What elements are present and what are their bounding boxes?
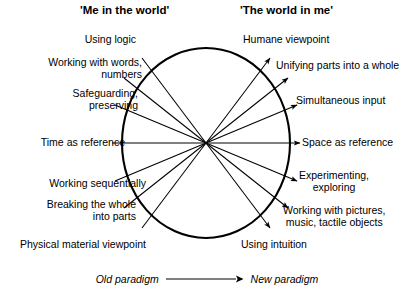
label-line: numbers bbox=[48, 69, 142, 81]
label-line: Working with pictures, bbox=[283, 205, 386, 217]
label-new-space-as-reference: Space as reference bbox=[302, 137, 393, 149]
label-old-time-as-reference: Time as reference bbox=[41, 137, 125, 149]
label-new-working-with-pictures-music-tactile-objects: Working with pictures, music, tactile ob… bbox=[283, 205, 386, 228]
label-new-unifying-parts-into-a-whole: Unifying parts into a whole bbox=[276, 60, 399, 72]
header-the-world-in-me: 'The world in me' bbox=[240, 4, 333, 16]
label-line: Humane viewpoint bbox=[243, 34, 329, 46]
label-line: Working with words, bbox=[48, 57, 142, 69]
label-old-physical-material-viewpoint: Physical material viewpoint bbox=[20, 239, 146, 251]
label-line: Unifying parts into a whole bbox=[276, 60, 399, 72]
label-new-simultaneous-input: Simultaneous input bbox=[296, 95, 385, 107]
diagram-canvas: 'Me in the world' 'The world in me' Usin… bbox=[0, 0, 414, 300]
label-line: Experimenting, bbox=[299, 170, 369, 182]
label-old-breaking-the-whole-into-parts: Breaking the whole into parts bbox=[47, 199, 136, 222]
label-new-experimenting-exploring: Experimenting, exploring bbox=[299, 170, 369, 193]
label-line: Safeguarding, bbox=[73, 88, 138, 100]
label-old-working-with-words-numbers: Working with words, numbers bbox=[48, 57, 142, 80]
label-line: preserving bbox=[73, 100, 138, 112]
label-old-safeguarding-preserving: Safeguarding, preserving bbox=[73, 88, 138, 111]
label-line: exploring bbox=[299, 182, 369, 194]
label-line: Using intuition bbox=[241, 239, 307, 251]
label-line: Breaking the whole bbox=[47, 199, 136, 211]
label-line: Simultaneous input bbox=[296, 95, 385, 107]
label-old-working-sequentially: Working sequentially bbox=[49, 178, 146, 190]
label-line: music, tactile objects bbox=[283, 217, 386, 229]
legend: Old paradigm New paradigm bbox=[0, 272, 414, 285]
label-line: Using logic bbox=[85, 34, 136, 46]
label-line: into parts bbox=[47, 211, 136, 223]
label-line: Working sequentially bbox=[49, 178, 146, 190]
paradigm-wheel-graphic bbox=[0, 0, 414, 300]
label-new-using-intuition: Using intuition bbox=[241, 239, 307, 251]
arrow-right-icon bbox=[166, 274, 244, 284]
header-me-in-the-world: 'Me in the world' bbox=[80, 4, 169, 16]
label-line: Time as reference bbox=[41, 137, 125, 149]
legend-new-paradigm: New paradigm bbox=[251, 273, 319, 285]
label-line: Physical material viewpoint bbox=[20, 239, 146, 251]
label-new-humane-viewpoint: Humane viewpoint bbox=[243, 34, 329, 46]
legend-old-paradigm: Old paradigm bbox=[96, 273, 159, 285]
label-line: Space as reference bbox=[302, 137, 393, 149]
label-old-using-logic: Using logic bbox=[85, 34, 136, 46]
